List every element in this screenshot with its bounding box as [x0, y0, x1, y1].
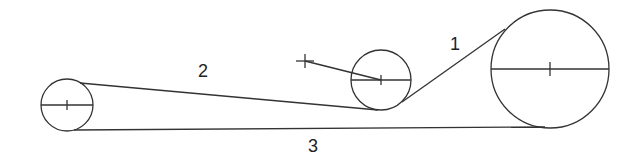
belt-pulley-diagram: 1 2 3: [0, 0, 637, 166]
belt-segment-2: [80, 83, 378, 110]
belt-label-3: 3: [308, 136, 318, 156]
belt-segment-3: [74, 127, 545, 130]
tension-arm: [296, 54, 381, 80]
belt-label-2: 2: [198, 61, 208, 81]
small-left-pulley: [41, 79, 93, 131]
large-right-pulley: [491, 10, 609, 128]
belt-label-1: 1: [450, 34, 460, 54]
